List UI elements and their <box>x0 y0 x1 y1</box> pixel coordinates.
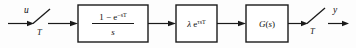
plant-block[interactable]: G(s) <box>246 5 288 42</box>
plant-expression: G(s) <box>259 19 275 29</box>
output-switch-arm <box>307 8 325 24</box>
output-sampler-period-label: T <box>310 26 316 36</box>
input-switch-arm <box>33 9 50 24</box>
block-diagram-svg: u T 1 − e−sT s λ eτsT <box>0 0 356 48</box>
output-arrowhead <box>342 21 349 27</box>
delay-input-arrowhead <box>168 21 176 27</box>
zoh-numerator-prefix: 1 − e <box>99 12 117 22</box>
delay-gain-block[interactable]: λ eτsT <box>176 5 217 42</box>
output-signal-group <box>288 8 349 26</box>
delay-exponent: τsT <box>197 19 206 25</box>
zoh-to-delay-connector <box>148 21 176 27</box>
input-sampler-period-label: T <box>37 27 43 37</box>
input-arrowhead <box>27 21 34 27</box>
plant-input-arrowhead <box>238 21 246 27</box>
zero-order-hold-block[interactable]: 1 − e−sT s <box>78 5 148 42</box>
output-label-y: y <box>332 5 338 15</box>
zoh-denominator: s <box>111 27 115 37</box>
output-sampler-arrowhead <box>301 21 308 27</box>
block-diagram-canvas: u T 1 − e−sT s λ eτsT <box>0 0 356 48</box>
zoh-input-arrowhead <box>70 21 78 27</box>
zoh-numerator-exponent: −sT <box>117 12 127 18</box>
input-signal-group <box>8 9 78 26</box>
delay-to-plant-connector <box>217 21 246 27</box>
input-label-u: u <box>24 5 29 15</box>
plant-paren-close: ) <box>272 19 275 29</box>
